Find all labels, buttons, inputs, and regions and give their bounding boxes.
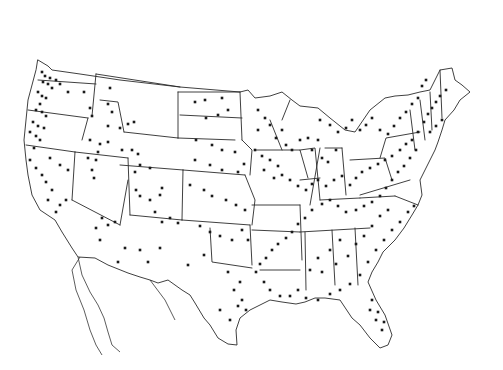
station-dot <box>391 179 394 182</box>
station-dot <box>49 157 52 160</box>
station-dot <box>371 117 374 120</box>
station-dot <box>355 243 358 246</box>
station-dot <box>229 319 232 322</box>
station-dot <box>291 231 294 234</box>
station-dot <box>377 311 380 314</box>
station-dot <box>169 217 172 220</box>
station-dot <box>39 103 42 106</box>
station-dot <box>409 157 412 160</box>
station-dot <box>285 144 288 147</box>
station-dot <box>43 127 46 130</box>
station-dot <box>405 143 408 146</box>
station-dot <box>297 289 300 292</box>
station-dot <box>347 255 350 258</box>
station-dot <box>217 114 220 117</box>
station-dot <box>234 151 237 154</box>
station-dot <box>45 115 48 118</box>
station-dot <box>89 107 92 110</box>
station-dot <box>279 295 282 298</box>
station-dot <box>307 137 310 140</box>
station-dot <box>407 211 410 214</box>
station-dot <box>277 165 280 168</box>
station-dot <box>427 113 430 116</box>
station-dot <box>371 299 374 302</box>
station-dot <box>327 161 330 164</box>
station-dot <box>383 321 386 324</box>
station-dot <box>384 159 387 162</box>
station-dot <box>311 209 314 212</box>
station-dot <box>405 111 408 114</box>
station-dot <box>161 187 164 190</box>
station-dot <box>369 167 372 170</box>
station-dot <box>371 225 374 228</box>
map-background <box>0 0 503 370</box>
station-dot <box>114 221 117 224</box>
station-dot <box>289 179 292 182</box>
station-dot <box>339 289 342 292</box>
station-dot <box>211 195 214 198</box>
station-dot <box>231 239 234 242</box>
station-dot <box>355 209 358 212</box>
station-dot <box>329 249 332 252</box>
station-dot <box>349 283 352 286</box>
station-dot <box>297 223 300 226</box>
station-dot <box>263 281 266 284</box>
station-dot <box>335 149 338 152</box>
station-dot <box>139 164 142 167</box>
station-dot <box>219 235 222 238</box>
station-dot <box>285 237 288 240</box>
station-dot <box>227 271 230 274</box>
station-dot <box>411 103 414 106</box>
station-dot <box>59 83 62 86</box>
station-dot <box>305 189 308 192</box>
station-dot <box>127 123 130 126</box>
station-dot <box>379 195 382 198</box>
station-dot <box>381 329 384 332</box>
station-dot <box>107 125 110 128</box>
station-dot <box>385 187 388 190</box>
station-dot <box>99 239 102 242</box>
station-dot <box>429 131 432 134</box>
station-dot <box>95 227 98 230</box>
station-dot <box>51 189 54 192</box>
station-dot <box>137 153 140 156</box>
station-dot <box>345 127 348 130</box>
station-dot <box>397 171 400 174</box>
station-dot <box>391 155 394 158</box>
station-dot <box>45 181 48 184</box>
station-dot <box>159 247 162 250</box>
station-dot <box>417 131 420 134</box>
station-dot <box>35 135 38 138</box>
station-dot <box>203 189 206 192</box>
station-dot <box>371 201 374 204</box>
station-dot <box>83 91 86 94</box>
station-dot <box>159 194 162 197</box>
station-dot <box>345 211 348 214</box>
station-dot <box>299 139 302 142</box>
station-dot <box>47 83 50 86</box>
station-dot <box>244 209 247 212</box>
station-dot <box>97 151 100 154</box>
station-dot <box>333 179 336 182</box>
station-dot <box>109 87 112 90</box>
station-dot <box>205 117 208 120</box>
station-dot <box>37 125 40 128</box>
station-dot <box>317 299 320 302</box>
station-dot <box>107 224 110 227</box>
station-dot <box>194 159 197 162</box>
station-dot <box>221 97 224 100</box>
station-dot <box>425 79 428 82</box>
station-dot <box>91 115 94 118</box>
station-dot <box>119 127 122 130</box>
station-dot <box>261 155 264 158</box>
station-dot <box>35 167 38 170</box>
station-dot <box>93 177 96 180</box>
station-dot <box>41 95 44 98</box>
station-dot <box>325 185 328 188</box>
station-dot <box>39 139 42 142</box>
station-dot <box>101 217 104 220</box>
station-dot <box>305 297 308 300</box>
station-dot <box>363 205 366 208</box>
station-dot <box>29 131 32 134</box>
station-dot <box>107 141 110 144</box>
